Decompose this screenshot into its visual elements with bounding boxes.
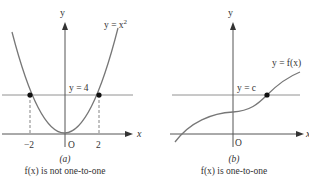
panel-b: y x y = f(x) y = c O (b) f(x) is one-to-… bbox=[170, 7, 309, 177]
x-axis-label-a: x bbox=[136, 128, 142, 139]
line-label-a: y = 4 bbox=[69, 83, 89, 93]
origin-label-b: O bbox=[235, 138, 242, 148]
figure-canvas: y x y = x2 y = 4 −2 O 2 (a) f(x) is not … bbox=[0, 0, 309, 184]
x-axis-label-b: x bbox=[305, 128, 309, 139]
y-axis-label-a: y bbox=[60, 7, 65, 18]
y-axis-arrow-icon bbox=[230, 22, 236, 30]
intersection-point-c bbox=[264, 92, 269, 97]
caption-b: f(x) is one-to-one bbox=[201, 166, 267, 177]
y-axis-label-b: y bbox=[228, 7, 233, 18]
intersection-point-2 bbox=[96, 92, 101, 97]
y-axis-arrow-icon bbox=[62, 22, 68, 30]
x-axis-arrow-icon bbox=[296, 131, 304, 137]
line-label-b: y = c bbox=[237, 83, 256, 93]
tick-label-2: 2 bbox=[96, 140, 101, 150]
x-axis-arrow-icon bbox=[125, 131, 133, 137]
panel-label-a: (a) bbox=[59, 154, 70, 165]
curve-label-a-exponent: 2 bbox=[124, 18, 128, 26]
curve-label-a-text: y = x bbox=[104, 20, 124, 30]
intersection-point-neg2 bbox=[27, 92, 32, 97]
panel-label-b: (b) bbox=[228, 154, 239, 165]
tick-label-neg2: −2 bbox=[24, 140, 34, 150]
panel-a: y x y = x2 y = 4 −2 O 2 (a) f(x) is not … bbox=[2, 7, 142, 177]
caption-a: f(x) is not one-to-one bbox=[25, 166, 106, 177]
origin-label-a: O bbox=[68, 140, 75, 150]
curve-label-a: y = x2 bbox=[104, 18, 128, 30]
curve-label-b: y = f(x) bbox=[272, 58, 301, 69]
